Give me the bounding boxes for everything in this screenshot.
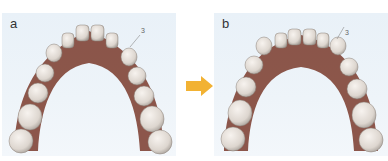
arrow-right-icon bbox=[186, 76, 214, 96]
panel-a-before: a 3 bbox=[2, 13, 176, 156]
tooth-marker: 3 bbox=[141, 27, 145, 34]
tooth-marker: 3 bbox=[345, 29, 349, 36]
dental-arch-illustration bbox=[214, 13, 388, 156]
panel-b-after: b 3 bbox=[214, 13, 388, 156]
dental-arch-illustration bbox=[2, 13, 176, 156]
